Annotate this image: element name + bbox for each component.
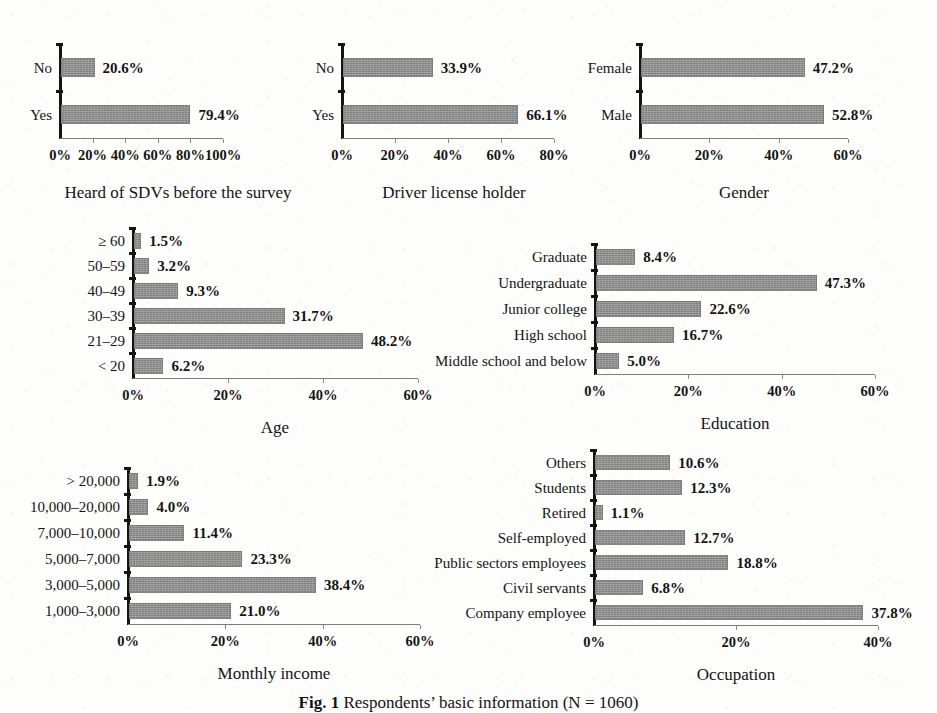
- x-axis-tick-label: 100%: [205, 148, 241, 163]
- category-label: Junior college: [434, 302, 587, 317]
- value-label: 12.3%: [690, 481, 731, 496]
- category-label: Middle school and below: [434, 354, 587, 369]
- x-axis-tick: [736, 626, 737, 630]
- y-axis-tick: [590, 524, 597, 527]
- y-axis-tick: [338, 43, 345, 46]
- x-axis-tick: [448, 139, 449, 143]
- y-axis-tick: [590, 499, 597, 502]
- x-axis-tick-label: 0%: [331, 148, 353, 163]
- value-label: 9.3%: [186, 284, 220, 299]
- x-axis-line: [133, 378, 418, 379]
- x-axis-tick-label: 60%: [834, 148, 863, 163]
- x-axis-tick-label: 20%: [211, 634, 240, 649]
- category-label: ≥ 60: [59, 234, 125, 249]
- y-axis-tick: [129, 252, 136, 255]
- category-label: 7,000–10,000: [12, 526, 120, 541]
- value-label: 1.1%: [611, 506, 645, 521]
- x-axis-tick-label: 0%: [122, 388, 144, 403]
- bar: [129, 603, 231, 619]
- panel-title-education: Education: [701, 415, 770, 432]
- figure-caption: Fig. 1 Respondents’ basic information (N…: [0, 693, 937, 713]
- bar: [596, 327, 674, 343]
- bar: [595, 555, 728, 570]
- x-axis-tick: [420, 625, 421, 629]
- y-axis-tick: [124, 545, 131, 548]
- x-axis-tick-label: 60%: [406, 634, 435, 649]
- y-axis-tick: [591, 269, 598, 272]
- bar: [129, 525, 184, 541]
- y-axis-tick: [636, 90, 643, 93]
- x-axis-tick: [688, 375, 689, 379]
- panel-title-driver-license-holder: Driver license holder: [382, 184, 526, 201]
- bar: [129, 577, 316, 593]
- x-axis-line: [128, 624, 420, 625]
- category-label: 50–59: [59, 259, 125, 274]
- bar: [129, 551, 242, 567]
- value-label: 33.9%: [441, 61, 482, 76]
- value-label: 6.2%: [171, 359, 205, 374]
- x-axis-tick-label: 20%: [381, 148, 410, 163]
- category-label: Undergraduate: [434, 276, 587, 291]
- x-axis-tick-label: 60%: [861, 384, 890, 399]
- bar: [134, 358, 163, 374]
- y-axis-tick: [124, 493, 131, 496]
- plot-area-age: < 206.2%21–2948.2%30–3931.7%40–499.3%50–…: [133, 228, 418, 378]
- x-axis-tick: [395, 139, 396, 143]
- value-label: 79.4%: [198, 108, 239, 123]
- y-axis-tick: [591, 243, 598, 246]
- value-label: 47.2%: [813, 61, 854, 76]
- category-label: Students: [429, 481, 586, 496]
- category-label: 21–29: [59, 334, 125, 349]
- plot-area-heard-of-sdvs: Yes79.4%No20.6%0%20%40%60%80%100%Heard o…: [60, 44, 223, 138]
- panel-title-age: Age: [261, 419, 289, 436]
- category-label: Male: [566, 108, 632, 123]
- y-axis-tick: [129, 227, 136, 230]
- category-label: High school: [434, 328, 587, 343]
- figure-caption-text: Respondents’ basic information (N = 1060…: [343, 693, 638, 712]
- y-axis-tick: [590, 574, 597, 577]
- value-label: 47.3%: [825, 276, 866, 291]
- value-label: 4.0%: [156, 500, 190, 515]
- bar: [134, 258, 149, 274]
- category-label: Female: [566, 61, 632, 76]
- value-label: 12.7%: [693, 531, 734, 546]
- value-label: 10.6%: [678, 456, 719, 471]
- value-label: 48.2%: [371, 334, 412, 349]
- category-label: No: [0, 61, 52, 76]
- bar: [596, 353, 619, 369]
- category-label: 1,000–3,000: [12, 604, 120, 619]
- bar: [595, 605, 863, 620]
- x-axis-tick-label: 40%: [864, 635, 893, 650]
- value-label: 23.3%: [250, 552, 291, 567]
- panel-title-heard-of-sdvs: Heard of SDVs before the survey: [64, 184, 291, 201]
- bar: [595, 480, 682, 495]
- y-axis-tick: [591, 347, 598, 350]
- y-axis-tick: [124, 519, 131, 522]
- x-axis-tick: [158, 139, 159, 143]
- category-label: 30–39: [59, 309, 125, 324]
- y-axis-tick: [591, 295, 598, 298]
- category-label: Company employee: [429, 606, 586, 621]
- value-label: 66.1%: [526, 108, 567, 123]
- y-axis-tick: [56, 43, 63, 46]
- y-axis-tick: [590, 474, 597, 477]
- bar: [596, 249, 635, 265]
- bar: [134, 308, 285, 324]
- y-axis-tick: [591, 321, 598, 324]
- bar: [61, 58, 95, 77]
- bar: [134, 233, 141, 249]
- category-label: 5,000–7,000: [12, 552, 120, 567]
- value-label: 5.0%: [627, 354, 661, 369]
- y-axis-tick: [56, 90, 63, 93]
- x-axis-tick-label: 60%: [143, 148, 172, 163]
- value-label: 18.8%: [736, 556, 777, 571]
- bar: [595, 505, 603, 520]
- value-label: 21.0%: [239, 604, 280, 619]
- bar: [595, 530, 685, 545]
- x-axis-tick-label: 60%: [487, 148, 516, 163]
- x-axis-tick-label: 40%: [434, 148, 463, 163]
- category-label: < 20: [59, 359, 125, 374]
- x-axis-tick: [782, 375, 783, 379]
- x-axis-tick: [878, 626, 879, 630]
